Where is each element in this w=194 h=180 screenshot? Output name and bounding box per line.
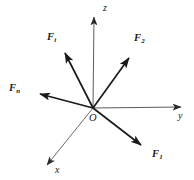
force-F2-label: F2 bbox=[134, 33, 145, 45]
y-axis-line bbox=[93, 107, 181, 108]
force-F1-label: F1 bbox=[152, 149, 163, 161]
force-Fn-arrow bbox=[40, 94, 93, 108]
x-axis-line bbox=[47, 108, 93, 165]
force-Fn-subscript: n bbox=[16, 87, 20, 95]
force-Fn-label: Fn bbox=[9, 83, 20, 95]
force-F2-arrow bbox=[93, 58, 129, 108]
force-Fi-label: Fi bbox=[47, 32, 56, 44]
force-Fn-base: F bbox=[9, 82, 16, 93]
force-F1-subscript: 1 bbox=[159, 153, 163, 161]
force-Fi-subscript: i bbox=[54, 36, 56, 44]
force-F2-base: F bbox=[134, 32, 141, 43]
force-Fi-arrow bbox=[65, 53, 93, 108]
origin-label: O bbox=[89, 113, 97, 124]
force-F1-arrow bbox=[93, 108, 141, 145]
force-vector-diagram: z y x O F1 F2 Fi Fn bbox=[0, 0, 194, 180]
diagram-canvas bbox=[0, 0, 194, 180]
z-axis-label: z bbox=[103, 3, 107, 13]
z-axis-line bbox=[93, 17, 94, 108]
force-Fi-base: F bbox=[47, 31, 54, 42]
x-axis-label: x bbox=[55, 165, 59, 175]
force-F2-subscript: 2 bbox=[141, 37, 145, 45]
y-axis-label: y bbox=[178, 111, 182, 121]
forces-group bbox=[40, 53, 141, 145]
axes-group bbox=[47, 17, 181, 165]
force-F1-base: F bbox=[152, 148, 159, 159]
